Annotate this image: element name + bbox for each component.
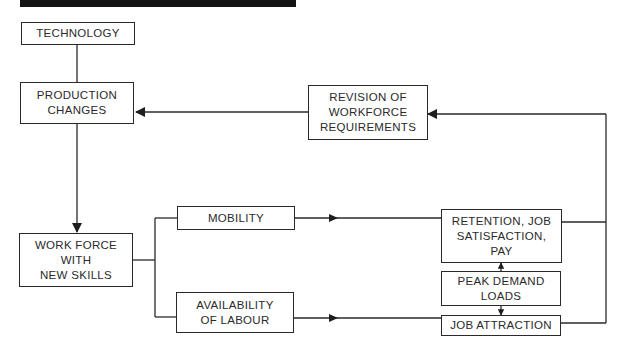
- node-revision-workforce-requirements: REVISION OF WORKFORCE REQUIREMENTS: [308, 85, 428, 140]
- node-job-attraction: JOB ATTRACTION: [441, 315, 561, 336]
- node-technology: TECHNOLOGY: [21, 22, 135, 45]
- arrow-mobility-icon: [329, 214, 338, 222]
- arrow-availability-icon: [329, 314, 338, 322]
- node-peak-demand-loads: PEAK DEMAND LOADS: [441, 271, 561, 306]
- node-production-changes: PRODUCTION CHANGES: [20, 82, 134, 124]
- node-mobility: MOBILITY: [177, 206, 295, 230]
- node-retention-satisfaction-pay: RETENTION, JOB SATISFACTION, PAY: [441, 209, 562, 263]
- node-workforce-new-skills: WORK FORCE WITH NEW SKILLS: [19, 233, 133, 287]
- node-availability-of-labour: AVAILABILITY OF LABOUR: [176, 292, 294, 333]
